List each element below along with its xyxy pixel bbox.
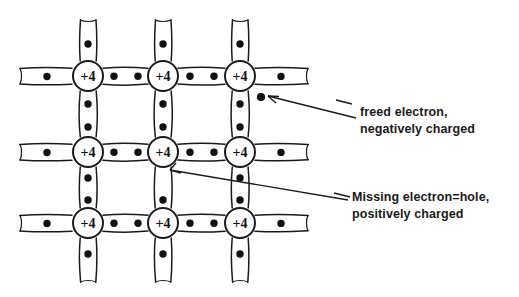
electron-dot [110,149,117,156]
electron-dot [159,196,166,203]
electron-dot [134,149,141,156]
electron-dot [236,100,243,107]
atom-charge-label: +4 [156,145,171,160]
v-bond-col3-bottom-stub [231,238,248,282]
electron-dot [84,40,91,47]
freed-electron-line2: negatively charged [360,121,475,138]
v-bond-col1-bottom-stub [79,238,96,282]
electron-dot [236,196,243,203]
electron-dot [84,250,91,257]
atom-charge-label: +4 [233,69,248,84]
h-bond-row2-a2-a3 [178,143,225,161]
freed-electron-annotation-label: freed electron, negatively charged [360,104,475,139]
electron-dot [159,250,166,257]
atom-core-r3c3: +4 [225,208,255,238]
electron-dot [277,73,284,80]
freed-electron-line1: freed electron, [360,105,448,119]
electron-dot [110,220,117,227]
electron-dot [43,220,50,227]
atom-core-r3c2: +4 [148,208,178,238]
electron-dot [277,220,284,227]
atom-core-r1c2: +4 [148,61,178,91]
atom-cores: +4 +4 +4 +4 +4 +4 [73,61,255,238]
atom-core-r1c3: +4 [225,61,255,91]
electron-dot [84,123,91,130]
electron-dot [236,174,243,181]
electron-dot [210,220,217,227]
electron-dot [159,100,166,107]
v-bond-col2-bottom-stub [154,238,171,282]
electron-dot [186,149,193,156]
hole-arrow [170,163,350,200]
electron-dot [186,220,193,227]
atom-core-r1c1: +4 [73,61,103,91]
atom-core-r3c1: +4 [73,208,103,238]
h-bond-row3-a2-a3 [178,214,225,232]
atom-core-r2c1: +4 [73,137,103,167]
hole-line1: Missing electron=hole, [352,190,489,204]
electron-dot [186,73,193,80]
atom-charge-label: +4 [233,216,248,231]
atom-charge-label: +4 [233,145,248,160]
electron-dot [43,73,50,80]
atom-charge-label: +4 [81,145,96,160]
annotation-arrows [170,96,356,200]
electron-dot [84,100,91,107]
atom-charge-label: +4 [156,216,171,231]
lattice-diagram: .tube { fill:none; stroke:#1a1a1a; strok… [0,0,519,297]
atom-charge-label: +4 [81,69,96,84]
electron-dot [134,220,141,227]
electron-dot [134,73,141,80]
electron-dot [210,73,217,80]
diagram-canvas: .tube { fill:none; stroke:#1a1a1a; strok… [0,0,519,297]
electron-dot [43,149,50,156]
hole-line2: positively charged [352,206,489,223]
atom-core-r2c3: +4 [225,137,255,167]
freed-electron-dot [257,93,265,101]
electron-dot [84,196,91,203]
atom-core-r2c2: +4 [148,137,178,167]
h-bond-row1-a2-a3 [178,67,225,85]
electron-dot [159,40,166,47]
atom-charge-label: +4 [81,216,96,231]
electron-dot [236,123,243,130]
electron-dot [236,40,243,47]
electron-dot [84,174,91,181]
electron-dot [210,149,217,156]
hole-annotation-label: Missing electron=hole, positively charge… [352,189,489,224]
freed-electron-arrow [268,96,356,118]
electron-dot [236,250,243,257]
electron-dot [159,123,166,130]
atom-charge-label: +4 [156,69,171,84]
electron-dot [277,149,284,156]
electron-dot [110,73,117,80]
